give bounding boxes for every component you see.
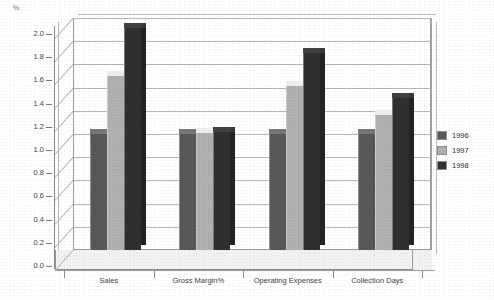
x-axis-category-label: Gross Margin% [172, 276, 224, 285]
y-axis-tick-label: 1.0 [34, 146, 44, 154]
x-axis-separator [422, 270, 423, 278]
bar-1998-gross-margin [213, 132, 230, 250]
bar-1996-gross-margin [179, 134, 196, 250]
legend-label: 1998 [452, 161, 469, 170]
bar-1997-gross-margin [196, 133, 213, 250]
legend-swatch [437, 131, 447, 140]
plot-top-edge-outer [78, 14, 436, 15]
bar-top-face [392, 93, 409, 98]
legend-item-1998[interactable]: 1998 [437, 160, 489, 173]
legend-label: 1996 [452, 131, 469, 140]
bar-top-face [107, 71, 124, 76]
bar-top-face [269, 129, 286, 134]
y-axis-tick-label: 1.6 [34, 76, 44, 84]
legend-swatch [437, 146, 447, 155]
x-axis-separator [243, 270, 244, 278]
bar-top-face [303, 48, 320, 53]
bar-side-face [409, 93, 414, 245]
x-axis-separator [64, 270, 65, 278]
bar-top-face [124, 23, 141, 28]
x-axis: SalesGross Margin%Operating ExpensesColl… [55, 270, 435, 292]
bar-1997-operating-expenses [286, 86, 303, 250]
y-axis-tick-mark [46, 243, 52, 244]
x-axis-category-label: Collection Days [351, 276, 403, 285]
y-axis-unit-label: % [13, 4, 19, 12]
y-axis-tick-mark [46, 150, 52, 151]
y-axis-tick-mark [46, 104, 52, 105]
y-axis-tick-label: 0.2 [34, 239, 44, 247]
bar-top-face [358, 129, 375, 134]
bar-front-face [303, 53, 320, 250]
bar-front-face [375, 115, 392, 250]
y-axis-tick-mark [46, 266, 52, 267]
bar-front-face [269, 134, 286, 250]
bar-front-face [286, 86, 303, 250]
y-axis-tick-mark [46, 220, 52, 221]
bar-1996-operating-expenses [269, 134, 286, 250]
x-axis-separator [154, 270, 155, 278]
bars-layer [55, 18, 435, 270]
bar-side-face [320, 48, 325, 245]
y-axis-tick-mark [46, 34, 52, 35]
bar-top-face [196, 128, 213, 133]
bar-front-face [213, 132, 230, 250]
bar-top-face [375, 110, 392, 115]
y-axis-tick-label: 1.8 [34, 53, 44, 61]
bar-side-face [230, 127, 235, 245]
legend-label: 1997 [452, 146, 469, 155]
bar-front-face [107, 76, 124, 250]
bar-front-face [124, 28, 141, 250]
y-axis-tick-label: 0.4 [34, 216, 44, 224]
bar-1997-collection-days [375, 115, 392, 250]
bar-top-face [179, 129, 196, 134]
bar-1996-sales [90, 134, 107, 250]
y-axis-tick-label: 1.2 [34, 123, 44, 131]
y-axis-tick-label: 0.8 [34, 169, 44, 177]
bar-1998-sales [124, 28, 141, 250]
y-axis-tick-mark [46, 196, 52, 197]
x-axis-baseline [55, 270, 435, 271]
bar-1996-collection-days [358, 134, 375, 250]
legend-item-1997[interactable]: 1997 [437, 145, 489, 158]
legend-swatch [437, 161, 447, 170]
bar-side-face [141, 23, 146, 245]
bar-front-face [196, 133, 213, 250]
y-axis-tick-mark [46, 173, 52, 174]
y-axis-tick-mark [46, 57, 52, 58]
bar-top-face [213, 127, 230, 132]
bar-1998-operating-expenses [303, 53, 320, 250]
x-axis-category-label: Operating Expenses [254, 276, 322, 285]
bar-1997-sales [107, 76, 124, 250]
bar-front-face [392, 98, 409, 250]
legend: 199619971998 [437, 130, 489, 175]
bar-top-face [286, 81, 303, 86]
y-axis-tick-label: 2.0 [34, 30, 44, 38]
bar-front-face [358, 134, 375, 250]
y-axis-tick-label: 0.0 [34, 262, 44, 270]
bar-front-face [179, 134, 196, 250]
x-axis-category-label: Sales [99, 276, 118, 285]
y-axis: 0.00.20.40.60.81.01.21.41.61.82.0 [15, 26, 55, 268]
y-axis-tick-mark [46, 127, 52, 128]
bar-top-face [90, 129, 107, 134]
y-axis-tick-label: 1.4 [34, 100, 44, 108]
x-axis-separator [333, 270, 334, 278]
bar-1998-collection-days [392, 98, 409, 250]
y-axis-tick-label: 0.6 [34, 192, 44, 200]
bar-chart: % 0.00.20.40.60.81.01.21.41.61.82.0 Sale… [0, 0, 494, 300]
y-axis-tick-mark [46, 80, 52, 81]
bar-front-face [90, 134, 107, 250]
legend-item-1996[interactable]: 1996 [437, 130, 489, 143]
